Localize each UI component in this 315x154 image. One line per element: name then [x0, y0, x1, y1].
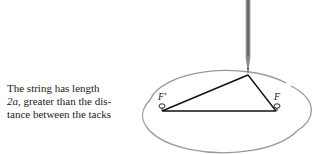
pencil-icon: [246, 0, 251, 75]
ellipse-construction-diagram: F′ F: [0, 0, 315, 154]
focus-right-label: F: [273, 91, 281, 102]
string: [162, 75, 276, 111]
focus-left-label: F′: [157, 91, 167, 102]
